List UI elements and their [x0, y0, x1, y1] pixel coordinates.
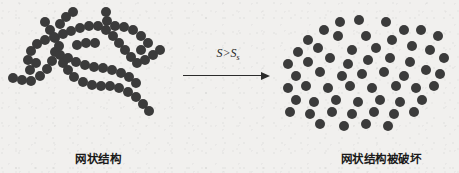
particle — [343, 59, 353, 69]
particle — [361, 119, 371, 129]
particle — [429, 81, 439, 91]
particle — [325, 53, 335, 63]
particle — [283, 83, 293, 93]
particle — [354, 15, 364, 25]
particle — [285, 107, 295, 117]
particle — [416, 25, 426, 35]
particle — [323, 83, 333, 93]
particle — [331, 95, 341, 105]
particle — [425, 45, 435, 55]
particle — [411, 83, 421, 93]
particle — [291, 71, 301, 81]
particle — [303, 35, 313, 45]
particle — [389, 109, 399, 119]
particle — [319, 25, 329, 35]
particle — [353, 97, 363, 107]
right-particle-field — [0, 0, 459, 145]
particle — [395, 97, 405, 107]
particle — [367, 83, 377, 93]
particle — [327, 107, 337, 117]
left-panel-caption: 网状结构 — [33, 150, 163, 166]
particle — [399, 71, 409, 81]
particle — [387, 35, 397, 45]
particle — [385, 53, 395, 63]
particle — [309, 97, 319, 107]
particle — [335, 17, 345, 27]
particle — [345, 81, 355, 91]
right-panel-dispersed-structure — [0, 0, 459, 145]
particle — [363, 55, 373, 65]
particle — [301, 81, 311, 91]
right-panel-caption: 网状结构被破坏 — [316, 150, 446, 166]
particle — [417, 95, 427, 105]
particle — [361, 31, 371, 41]
particle — [357, 69, 367, 79]
particle — [305, 109, 315, 119]
particle — [313, 43, 323, 53]
particle — [315, 67, 325, 77]
particle — [347, 45, 357, 55]
particle — [293, 47, 303, 57]
particle — [283, 59, 293, 69]
particle — [371, 43, 381, 53]
particle — [337, 71, 347, 81]
particle — [381, 17, 391, 27]
particle — [405, 57, 415, 67]
particle — [391, 81, 401, 91]
colloid-network-figure: 网状结构 S>Ss 网状结构被破坏 — [0, 0, 459, 173]
particle — [347, 109, 357, 119]
particle — [407, 41, 417, 51]
particle — [435, 69, 445, 79]
particle — [315, 119, 325, 129]
particle — [433, 31, 443, 41]
particle — [375, 95, 385, 105]
particle — [439, 53, 449, 63]
particle — [291, 95, 301, 105]
particle — [421, 65, 431, 75]
particle — [399, 25, 409, 35]
particle — [369, 107, 379, 117]
particle — [379, 67, 389, 77]
particle — [303, 57, 313, 67]
particle — [333, 31, 343, 41]
particle — [339, 121, 349, 131]
particle — [383, 121, 393, 131]
particle — [409, 107, 419, 117]
